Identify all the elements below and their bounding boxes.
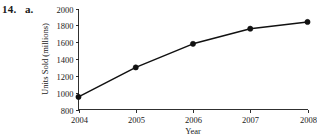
y-axis-ticks: 800100012001400160018002000 <box>57 5 79 116</box>
x-axis-ticks: 20042005200620072008 <box>71 110 317 125</box>
axes-group <box>79 9 308 110</box>
line-chart: 800100012001400160018002000 200420052006… <box>0 0 317 138</box>
series-markers <box>76 19 310 99</box>
y-tick-label: 1200 <box>57 72 74 82</box>
data-point <box>190 41 195 46</box>
x-tick-label: 2007 <box>242 115 259 125</box>
x-axis-title: Year <box>185 126 201 136</box>
y-tick-label: 1600 <box>57 38 74 48</box>
y-tick-label: 1400 <box>57 55 74 65</box>
y-tick-label: 2000 <box>57 5 74 15</box>
x-tick-label: 2005 <box>128 115 145 125</box>
y-tick-label: 1800 <box>57 21 74 31</box>
figure-root: 14. a. 800100012001400160018002000 20042… <box>0 0 317 138</box>
series-line <box>79 22 308 97</box>
y-tick-label: 1000 <box>57 89 74 99</box>
x-tick-label: 2008 <box>300 115 317 125</box>
data-point <box>133 65 138 70</box>
x-tick-label: 2004 <box>71 115 89 125</box>
data-series-units-sold <box>76 19 310 99</box>
x-tick-label: 2006 <box>185 115 202 125</box>
data-point <box>305 19 310 24</box>
y-axis-title: Units Sold (millions) <box>40 23 50 95</box>
chart-canvas: 800100012001400160018002000 200420052006… <box>0 0 317 138</box>
data-point <box>248 26 253 31</box>
data-point <box>76 94 81 99</box>
